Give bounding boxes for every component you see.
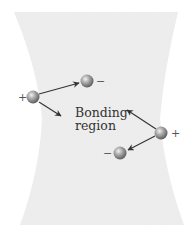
bonding-label-line2: region [75,118,116,133]
nucleus-left-sphere [27,91,40,104]
charge-bottom: − [103,147,112,160]
charge-top: − [96,75,105,88]
nucleus-right-sphere [155,127,168,140]
electron-top-sphere [81,75,94,88]
charge-right: + [171,127,180,140]
bonding-region-diagram: + − + − Bonding region [0,0,192,236]
electron-bottom-sphere [114,147,127,160]
charge-left: + [18,91,27,104]
